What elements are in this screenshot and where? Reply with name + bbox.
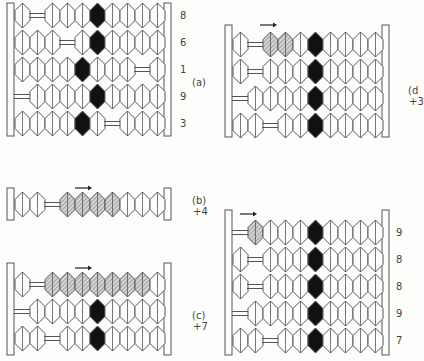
black-bead — [90, 84, 105, 109]
black-bead — [90, 30, 105, 55]
panel-increment: +4 — [193, 207, 208, 217]
black-bead — [308, 32, 323, 57]
panel-label: (c) — [192, 311, 205, 321]
row-value-label: 9 — [180, 92, 186, 102]
abacus-rod — [15, 111, 165, 136]
frame-left — [225, 210, 232, 355]
row-value-label: 7 — [396, 336, 402, 346]
abacus-rod — [233, 59, 383, 84]
abacus-rod — [233, 328, 383, 353]
abacus-panel-b — [7, 186, 171, 221]
frame-left — [225, 25, 232, 137]
black-bead — [308, 247, 323, 272]
abacus-rod — [233, 274, 383, 299]
row-value-label: 1 — [180, 65, 186, 75]
black-bead — [308, 220, 323, 245]
black-bead — [308, 274, 323, 299]
abacus-rod — [15, 326, 165, 351]
row-value-label: 9 — [396, 309, 402, 319]
row-value-label: 8 — [396, 255, 402, 265]
panel-label: (a) — [192, 78, 206, 88]
black-bead — [75, 57, 90, 82]
black-bead — [308, 328, 323, 353]
abacus-rod — [232, 86, 383, 111]
abacus-rod — [15, 192, 165, 217]
abacus-rod — [233, 113, 383, 138]
abacus-rod — [232, 220, 383, 245]
panel-label: (b) — [192, 196, 206, 206]
abacus-rod — [14, 84, 165, 109]
frame-left — [7, 3, 14, 136]
black-bead — [75, 111, 90, 136]
black-bead — [308, 59, 323, 84]
abacus-panel-e — [225, 210, 389, 355]
abacus-rod — [14, 299, 165, 324]
abacus-rod — [15, 272, 165, 297]
black-bead — [308, 301, 323, 326]
row-value-label: 8 — [180, 11, 186, 21]
abacus-panel-d — [225, 23, 389, 139]
panel-increment: +7 — [193, 322, 208, 332]
panel-increment: +3 — [409, 97, 424, 107]
abacus-rod — [232, 301, 383, 326]
abacus-rod — [15, 3, 165, 28]
black-bead — [308, 86, 323, 111]
black-bead — [90, 3, 105, 28]
abacus-rod — [15, 57, 165, 82]
abacus-rod — [15, 30, 165, 55]
row-value-label: 6 — [180, 38, 186, 48]
black-bead — [90, 299, 105, 324]
frame-left — [7, 263, 14, 355]
black-bead — [308, 113, 323, 138]
frame-left — [7, 188, 14, 220]
panel-label: (d — [408, 86, 418, 96]
abacus-rod — [233, 247, 383, 272]
abacus-panel-c — [7, 263, 171, 355]
abacus-panel-a — [7, 3, 171, 136]
row-value-label: 8 — [396, 282, 402, 292]
row-value-label: 9 — [396, 228, 402, 238]
abacus-rod — [233, 32, 383, 57]
row-value-label: 3 — [180, 119, 186, 129]
black-bead — [90, 326, 105, 351]
